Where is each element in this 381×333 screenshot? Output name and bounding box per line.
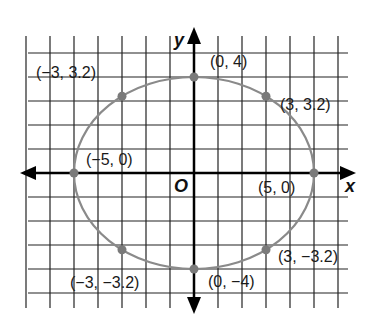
origin-label: O [174,176,188,196]
data-point [310,169,319,178]
y-axis-arrow-up-icon [187,27,201,44]
coordinate-plane: (−3, 3.2)(0, 4)(3, 3.2)(−5, 0)(5, 0)(−3,… [0,0,381,333]
x-axis-label: x [344,176,356,196]
point-label: (3, −3.2) [278,248,338,265]
point-label: (−3, −3.2) [70,274,139,291]
point-label: (0, −4) [208,273,255,290]
data-point [190,265,199,274]
data-point [118,245,127,254]
data-point [190,73,199,82]
data-point [70,169,79,178]
point-label: (−3, 3.2) [36,64,96,81]
data-point [262,245,271,254]
point-label: (0, 4) [210,53,247,70]
point-label: (5, 0) [258,179,295,196]
x-axis-arrow-left-icon [20,166,36,180]
data-point [262,92,271,101]
point-label: (−5, 0) [86,151,133,168]
data-point [118,92,127,101]
y-axis-arrow-down-icon [187,297,201,314]
point-label: (3, 3.2) [280,96,331,113]
y-axis-label: y [173,30,185,50]
